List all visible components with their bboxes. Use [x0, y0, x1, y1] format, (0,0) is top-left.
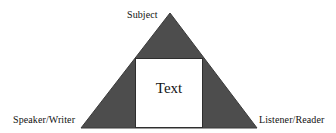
text-box-label: Text	[135, 80, 203, 97]
vertex-label-subject: Subject	[127, 9, 158, 21]
vertex-label-speaker-writer: Speaker/Writer	[13, 114, 75, 126]
vertex-label-listener-reader: Listener/Reader	[259, 114, 324, 126]
rhetorical-triangle-diagram: Subject Speaker/Writer Listener/Reader T…	[0, 0, 336, 133]
